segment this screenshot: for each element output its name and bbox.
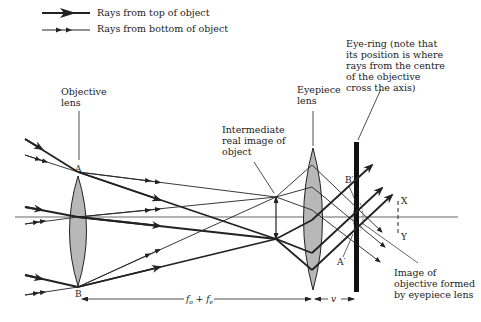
dimension-eye-distance: v [315,294,354,304]
dimension-focal-sum: fo + fe [82,294,311,305]
arrow-head-icon [66,28,72,33]
point-y-label: Y [400,232,408,242]
objective-lens-label: Objective lens [61,86,110,108]
image-of-objective-label: Image of objective formed by eyepiece le… [394,267,478,300]
point-b-label: B [75,289,82,299]
intermediate-image-label: Intermediate real image of object [222,124,289,157]
telescope-ray-diagram: Rays from top of object Rays from bottom… [0,0,481,322]
eye-ring-bar [354,142,359,292]
objective-to-eyepiece-rays [78,165,312,287]
point-a-prime-label: A′ [336,257,346,267]
eye-ring-label: Eye-ring (note that its position is wher… [346,38,448,93]
eye-ring-label-leader [358,89,381,140]
objective-lens [70,176,87,286]
intermediate-label-leader [254,162,274,193]
image-of-objective-leader [362,223,418,263]
eye-distance-label: v [331,294,336,304]
arrow-head-icon [56,28,62,33]
legend-item-top-rays: Rays from top of object [42,7,210,18]
eyepiece-lens-label: Eyepiece lens [297,84,344,106]
point-b-prime-label: B′ [345,175,354,185]
point-x-label: X [401,196,408,206]
legend-label-bottom: Rays from bottom of object [97,23,228,34]
focal-sum-label: fo + fe [185,294,214,305]
legend-item-bottom-rays: Rays from bottom of object [42,23,228,34]
legend: Rays from top of object Rays from bottom… [42,7,228,34]
legend-label-top: Rays from top of object [97,7,210,18]
